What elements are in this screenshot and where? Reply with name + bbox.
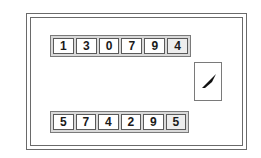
bottom-digit-row: 5 7 4 2 9 5 [50, 111, 189, 133]
bottom-digit-5: 9 [143, 114, 164, 130]
top-digit-4: 7 [121, 38, 142, 54]
top-digit-5: 9 [144, 38, 165, 54]
top-digit-1: 1 [53, 38, 74, 54]
bottom-digit-2: 7 [76, 114, 97, 130]
bottom-digit-1: 5 [53, 114, 74, 130]
top-digit-6: 4 [167, 38, 188, 54]
bottom-digit-3: 4 [98, 114, 119, 130]
top-digit-3: 0 [99, 38, 120, 54]
pointer-panel [194, 62, 222, 101]
top-digit-2: 3 [76, 38, 97, 54]
bottom-digit-6: 5 [166, 114, 187, 130]
bottom-digit-4: 2 [121, 114, 142, 130]
needle-pointer-icon [201, 73, 217, 89]
top-digit-row: 1 3 0 7 9 4 [50, 35, 191, 57]
